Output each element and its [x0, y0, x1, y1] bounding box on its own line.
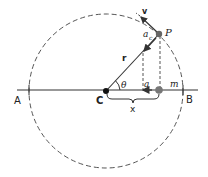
- x-brace: [107, 94, 159, 103]
- label-P: P: [164, 27, 172, 38]
- label-C: C: [96, 95, 103, 106]
- mass-m: [155, 86, 163, 94]
- shm-reference-circle-diagram: A B C P r θ v a c a m x: [0, 0, 208, 177]
- label-x: x: [130, 104, 136, 114]
- theta-arc: [116, 81, 121, 90]
- label-m: m: [170, 79, 179, 89]
- label-a: a: [144, 79, 149, 89]
- label-r: r: [122, 53, 127, 63]
- label-a-c-subscript: c: [149, 34, 153, 41]
- center-point-C: [103, 88, 109, 94]
- label-A: A: [14, 95, 21, 106]
- label-B: B: [186, 94, 193, 105]
- velocity-tangent-dash: [136, 13, 140, 16]
- point-P: [156, 31, 162, 37]
- label-theta: θ: [121, 80, 127, 90]
- label-a-c: a: [143, 29, 148, 39]
- label-v: v: [142, 7, 148, 16]
